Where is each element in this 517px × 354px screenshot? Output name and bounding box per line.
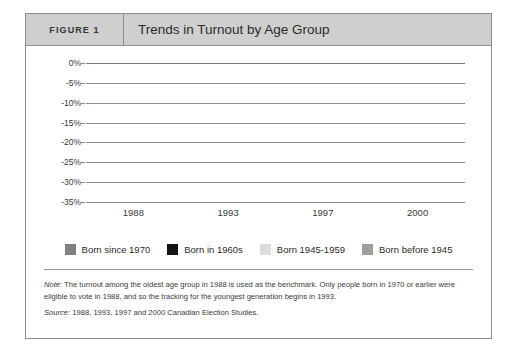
bar-group-bars bbox=[293, 63, 353, 202]
y-tick-label: -20% bbox=[61, 137, 81, 147]
figure-title: Trends in Turnout by Age Group bbox=[138, 22, 330, 37]
legend-label: Born 1945-1959 bbox=[277, 244, 345, 255]
legend-swatch bbox=[167, 244, 178, 255]
y-tick-label: -30% bbox=[61, 177, 81, 187]
bar-groups: 1988199319972000 bbox=[86, 63, 465, 202]
note-lead: Note: bbox=[44, 280, 62, 289]
figure-header: FIGURE 1 Trends in Turnout by Age Group bbox=[26, 14, 491, 46]
source-lead: Source: bbox=[44, 308, 70, 317]
bar-group-bars bbox=[198, 63, 258, 202]
note-line: Note: The turnout among the oldest age g… bbox=[44, 279, 473, 302]
x-tick-label: 1997 bbox=[312, 207, 333, 218]
figure-notes: Note: The turnout among the oldest age g… bbox=[44, 269, 473, 319]
x-tick-label: 1988 bbox=[123, 207, 144, 218]
figure-title-cell: Trends in Turnout by Age Group bbox=[124, 14, 491, 45]
legend-item: Born 1945-1959 bbox=[260, 244, 345, 255]
y-tick-label: -25% bbox=[61, 157, 81, 167]
legend-swatch bbox=[260, 244, 271, 255]
chart-area: 0%-5%-10%-15%-20%-25%-30%-35% 1988199319… bbox=[44, 59, 473, 222]
y-tick-label: -5% bbox=[66, 78, 81, 88]
figure-number-label: FIGURE 1 bbox=[49, 25, 99, 35]
bar-group: 1988 bbox=[86, 63, 181, 202]
legend-item: Born before 1945 bbox=[362, 244, 452, 255]
y-tick-mark bbox=[81, 83, 85, 84]
y-tick-mark bbox=[81, 142, 85, 143]
legend-label: Born since 1970 bbox=[82, 244, 151, 255]
bar-group: 1993 bbox=[181, 63, 276, 202]
source-text: 1988, 1993, 1997 and 2000 Canadian Elect… bbox=[70, 308, 258, 317]
y-tick-mark bbox=[81, 103, 85, 104]
bar-group-bars bbox=[388, 63, 448, 202]
bar-group-bars bbox=[103, 63, 163, 202]
y-tick-mark bbox=[81, 182, 85, 183]
y-tick-mark bbox=[81, 162, 85, 163]
y-tick-label: -35% bbox=[61, 197, 81, 207]
plot-region: 0%-5%-10%-15%-20%-25%-30%-35% 1988199319… bbox=[86, 63, 465, 202]
legend-item: Born since 1970 bbox=[65, 244, 151, 255]
note-text: The turnout among the oldest age group i… bbox=[44, 280, 455, 301]
x-tick-label: 1993 bbox=[218, 207, 239, 218]
legend-swatch bbox=[65, 244, 76, 255]
y-tick-label: -10% bbox=[61, 98, 81, 108]
y-tick-mark bbox=[81, 63, 85, 64]
y-tick-label: 0% bbox=[69, 58, 81, 68]
figure-number-cell: FIGURE 1 bbox=[26, 14, 124, 45]
y-tick-mark bbox=[81, 123, 85, 124]
legend-swatch bbox=[362, 244, 373, 255]
chart-legend: Born since 1970Born in 1960sBorn 1945-19… bbox=[26, 244, 491, 255]
x-tick-label: 2000 bbox=[407, 207, 428, 218]
legend-label: Born before 1945 bbox=[379, 244, 452, 255]
bar-group: 2000 bbox=[370, 63, 465, 202]
legend-label: Born in 1960s bbox=[184, 244, 243, 255]
source-line: Source: 1988, 1993, 1997 and 2000 Canadi… bbox=[44, 307, 473, 319]
bar-group: 1997 bbox=[276, 63, 371, 202]
figure-panel: FIGURE 1 Trends in Turnout by Age Group … bbox=[25, 13, 492, 339]
y-tick-mark bbox=[81, 202, 85, 203]
legend-item: Born in 1960s bbox=[167, 244, 243, 255]
y-tick-label: -15% bbox=[61, 118, 81, 128]
gridline: -35% bbox=[86, 202, 465, 203]
